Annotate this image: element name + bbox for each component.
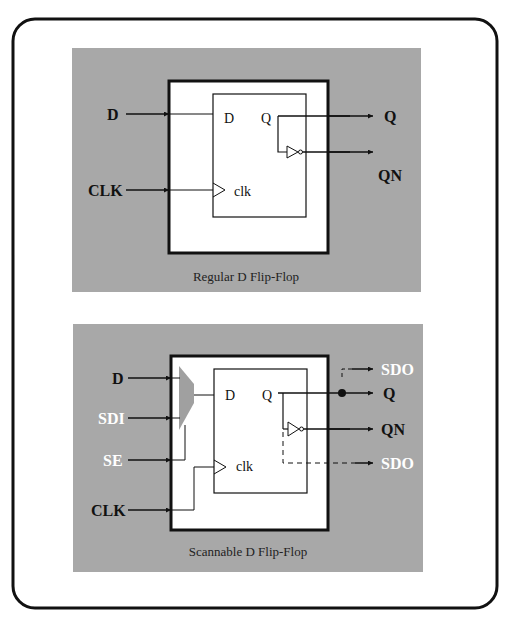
input-label-se: SE (103, 452, 123, 469)
pin-d: D (225, 388, 235, 403)
input-label-d: D (107, 106, 119, 123)
output-label-qn: QN (378, 167, 402, 184)
scannable-caption: Scannable D Flip-Flop (189, 544, 307, 559)
output-label-q: Q (384, 108, 396, 125)
regular-caption: Regular D Flip-Flop (193, 269, 299, 284)
pin-clk: clk (234, 184, 251, 199)
output-label-sdo-top: SDO (381, 361, 414, 378)
input-label-clk: CLK (91, 502, 126, 519)
scannable-dff-panel: D SDI SE CLK D Q clk Q SDO (73, 324, 423, 572)
pin-d: D (224, 111, 234, 126)
output-label-qn: QN (381, 421, 405, 438)
inverter-bubble-icon (300, 427, 304, 431)
output-label-q: Q (383, 385, 395, 402)
input-label-sdi: SDI (98, 410, 125, 427)
pin-clk: clk (236, 459, 253, 474)
pin-q: Q (261, 111, 271, 126)
input-label-d: D (112, 370, 124, 387)
inverter-bubble-icon (299, 150, 303, 154)
output-label-sdo-bottom: SDO (381, 455, 414, 472)
pin-q: Q (262, 388, 272, 403)
flip-flop-diagram: D CLK D Q clk Q QN Regular D Flip-Flop (0, 0, 508, 622)
input-label-clk: CLK (88, 182, 123, 199)
regular-dff-panel: D CLK D Q clk Q QN Regular D Flip-Flop (72, 48, 421, 292)
